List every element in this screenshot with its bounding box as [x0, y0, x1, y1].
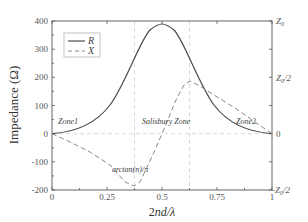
arctan-label: arctan(n)/π [112, 165, 149, 174]
svg-text:1: 1 [270, 192, 275, 202]
svg-text:Z0/2: Z0/2 [276, 73, 292, 84]
left-y-tick-labels: 400 300 200 100 0 -100 -200 [32, 16, 49, 195]
svg-text:0: 0 [50, 192, 55, 202]
zone2-label: Zone2 [236, 117, 256, 126]
svg-text:0: 0 [276, 129, 281, 139]
svg-text:0.75: 0.75 [209, 192, 225, 202]
svg-text:0: 0 [44, 129, 49, 139]
legend-box [64, 33, 100, 57]
x-series-line [52, 81, 272, 186]
svg-text:0.25: 0.25 [99, 192, 115, 202]
y-axis-title: Impedance (Ω) [6, 66, 21, 145]
right-y-ticks [269, 21, 272, 190]
legend-x-label: X [87, 45, 95, 56]
svg-text:Z0: Z0 [276, 16, 284, 27]
svg-text:200: 200 [35, 72, 49, 82]
svg-text:-100: -100 [32, 157, 49, 167]
x-axis-title: 2nd/λ [149, 205, 176, 219]
salisbury-zone-label: Salisbury Zone [142, 117, 191, 126]
svg-text:100: 100 [35, 101, 49, 111]
svg-text:400: 400 [35, 16, 49, 26]
zone1-label: Zone1 [58, 117, 78, 126]
legend: R X [64, 33, 100, 57]
impedance-chart: R X Zone1 Salisbury Zone Zone2 arctan(n)… [0, 0, 308, 222]
x-tick-labels: 0 0.25 0.5 0.75 1 [50, 192, 275, 202]
svg-text:-Z0/2: -Z0/2 [272, 185, 291, 196]
svg-text:0.5: 0.5 [156, 192, 168, 202]
svg-text:-200: -200 [32, 185, 49, 195]
svg-text:300: 300 [35, 44, 49, 54]
right-y-tick-labels: Z0 Z0/2 0 -Z0/2 [272, 16, 292, 196]
